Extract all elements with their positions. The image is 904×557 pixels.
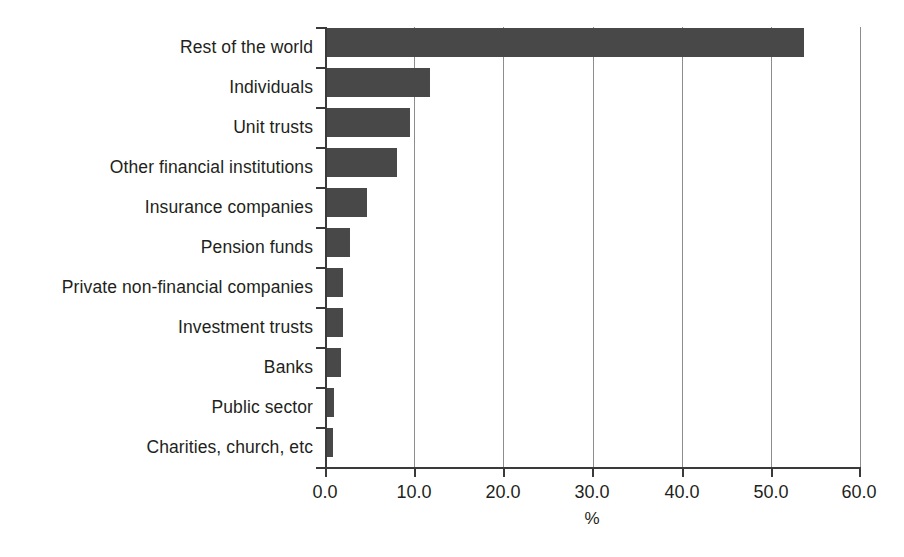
y-axis-category-labels: Rest of the world Individuals Unit trust…	[0, 27, 313, 467]
x-axis-tick-label-6: 60.0	[841, 481, 876, 503]
plot-area	[325, 27, 860, 467]
gridline-40	[682, 27, 683, 467]
bar-banks	[325, 348, 341, 377]
y-axis-tick-6	[316, 267, 326, 269]
y-axis-tick-1	[316, 67, 326, 69]
bar-rest-of-the-world	[325, 28, 804, 57]
gridline-50	[771, 27, 772, 467]
x-axis-tick-label-2: 20.0	[485, 481, 520, 503]
bar-unit-trusts	[325, 108, 410, 137]
y-axis-label-6: Private non-financial companies	[0, 277, 313, 297]
y-axis-label-8: Banks	[0, 357, 313, 377]
bar-pension-funds	[325, 228, 350, 257]
y-axis-label-1: Individuals	[0, 77, 313, 97]
y-axis-tick-8	[316, 347, 326, 349]
y-axis-tick-10	[316, 427, 326, 429]
y-axis-label-3: Other financial institutions	[0, 157, 313, 177]
x-axis-tick-10	[414, 468, 416, 477]
y-axis-tick-5	[316, 227, 326, 229]
bar-private-non-financial-companies	[325, 268, 343, 297]
y-axis-tick-4	[316, 187, 326, 189]
y-axis-line	[325, 27, 327, 468]
x-axis-tick-50	[771, 468, 773, 477]
x-axis-tick-label-5: 50.0	[753, 481, 788, 503]
x-axis-tick-60	[859, 468, 861, 477]
bar-insurance-companies	[325, 188, 367, 217]
x-axis-tick-label-0: 0.0	[312, 481, 337, 503]
y-axis-tick-0	[316, 27, 326, 29]
gridline-30	[593, 27, 594, 467]
x-axis-tick-20	[503, 468, 505, 477]
x-axis-tick-40	[682, 468, 684, 477]
bar-chart: Rest of the world Individuals Unit trust…	[0, 0, 904, 557]
y-axis-tick-9	[316, 387, 326, 389]
y-axis-tick-2	[316, 107, 326, 109]
x-axis-title: %	[584, 509, 599, 529]
gridline-20	[503, 27, 504, 467]
x-axis-tick-label-4: 40.0	[664, 481, 699, 503]
y-axis-label-0: Rest of the world	[0, 37, 313, 57]
x-axis-tick-30	[592, 468, 594, 477]
y-axis-tick-3	[316, 147, 326, 149]
x-axis-tick-label-3: 30.0	[574, 481, 609, 503]
y-axis-label-2: Unit trusts	[0, 117, 313, 137]
x-axis-tick-0	[325, 468, 327, 477]
bar-investment-trusts	[325, 308, 343, 337]
y-axis-label-7: Investment trusts	[0, 317, 313, 337]
y-axis-label-9: Public sector	[0, 397, 313, 417]
gridline-60	[860, 27, 861, 467]
y-axis-label-5: Pension funds	[0, 237, 313, 257]
bar-individuals	[325, 68, 430, 97]
y-axis-label-4: Insurance companies	[0, 197, 313, 217]
x-axis-tick-label-1: 10.0	[396, 481, 431, 503]
y-axis-tick-7	[316, 307, 326, 309]
bar-other-financial-institutions	[325, 148, 397, 177]
y-axis-label-10: Charities, church, etc	[0, 437, 313, 457]
